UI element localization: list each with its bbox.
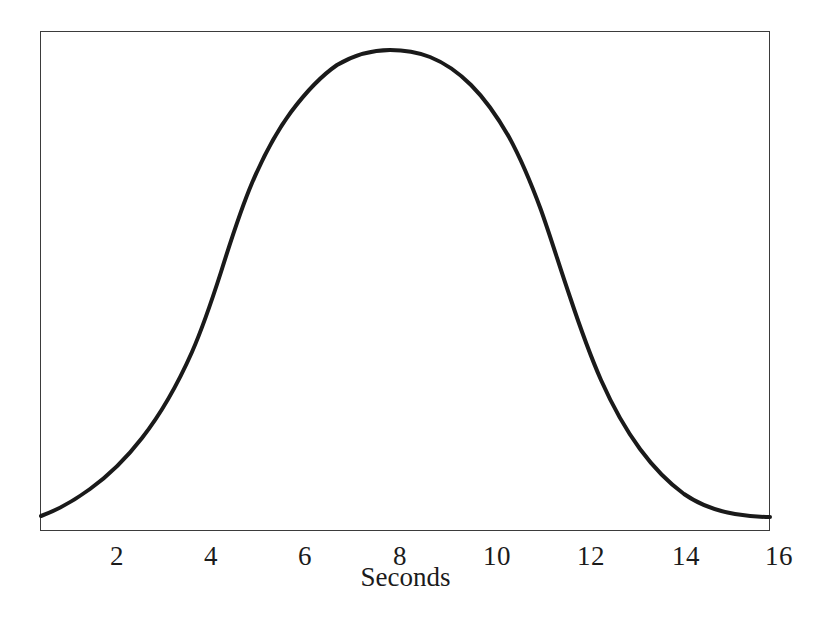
plot-frame <box>40 31 770 531</box>
x-axis-title: Seconds <box>0 560 817 594</box>
chart-figure: 2 4 6 8 10 12 14 16 Seconds <box>0 0 817 621</box>
x-axis-title-text: Seconds <box>361 562 451 592</box>
